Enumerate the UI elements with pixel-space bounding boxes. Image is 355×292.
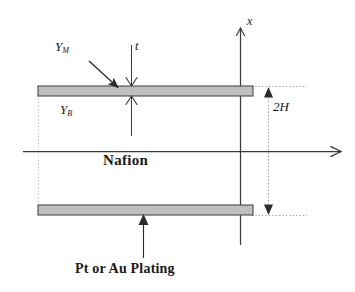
label-thickness-t: t	[135, 40, 138, 52]
label-y-m: YM	[55, 40, 69, 55]
nafion-membrane-diagram: YM YB t x 2H Nafion Pt or Au Plating	[0, 0, 355, 292]
leader-arrow-ym	[89, 61, 118, 88]
label-height-2h: 2H	[273, 100, 289, 113]
label-y-b: YB	[60, 103, 72, 118]
bottom-plating-bar	[38, 205, 253, 215]
label-axis-x: x	[247, 15, 252, 27]
label-y-b-subscript: B	[67, 109, 72, 118]
leader-arrow-plating-head	[139, 214, 149, 225]
dimension-2h-arrow-bottom	[264, 205, 273, 216]
label-pt-or-au-plating: Pt or Au Plating	[75, 262, 175, 276]
label-y-m-subscript: M	[62, 46, 69, 55]
leader-arrow-plating-group	[139, 214, 149, 258]
dimension-2h-arrow-top	[264, 87, 273, 98]
top-plating-bar	[38, 86, 253, 96]
label-nafion: Nafion	[103, 153, 148, 168]
leader-arrow-ym-group	[89, 61, 118, 88]
diagram-canvas	[0, 0, 355, 292]
